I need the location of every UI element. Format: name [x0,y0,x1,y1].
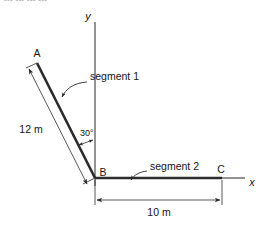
point-c-label: C [217,163,225,175]
x-axis-label: x [248,176,255,188]
dim-12m-label: 12 m [19,123,43,135]
segment-1-label: segment 1 [90,70,139,82]
point-a-label: A [33,47,40,59]
point-b-label: B [99,166,106,178]
segment-1-leader-line [62,82,87,97]
figure-container: --- --- --- --- y x [0,0,271,226]
y-axis-label: y [84,10,92,22]
segment-2-label: segment 2 [150,160,199,172]
dim-12m-extension-top [26,63,37,68]
dim-10m-label: 10 m [147,206,171,218]
angle-arrow-line [79,140,93,145]
angle-label: 30° [80,128,94,138]
segment-1-beam [37,63,95,178]
beam-diagram: y x A B C segment 1 segment 2 12 m 10 m … [0,0,271,226]
